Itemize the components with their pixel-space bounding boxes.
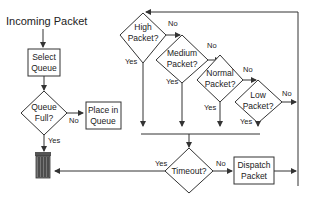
- high-no-label: No: [168, 19, 178, 28]
- svg-text:Queue: Queue: [31, 63, 57, 73]
- svg-text:Packet?: Packet?: [128, 33, 159, 43]
- svg-text:Packet?: Packet?: [205, 79, 236, 89]
- svg-text:Normal: Normal: [206, 68, 234, 78]
- high-yes-label: Yes: [125, 57, 137, 66]
- place-in-queue-node: Place in Queue: [86, 102, 121, 129]
- svg-text:Packet?: Packet?: [243, 101, 274, 111]
- svg-text:High: High: [134, 22, 152, 32]
- queue-full-no-label: No: [69, 116, 79, 125]
- svg-text:Packet?: Packet?: [167, 59, 198, 69]
- incoming-packet-label: Incoming Packet: [6, 15, 87, 27]
- timeout-yes-label: Yes: [155, 159, 167, 168]
- svg-text:Packet: Packet: [241, 171, 268, 181]
- low-yes-label: Yes: [240, 117, 252, 126]
- high-packet-decision: High Packet?: [120, 13, 166, 63]
- svg-text:Full?: Full?: [35, 113, 54, 123]
- svg-text:Place in: Place in: [88, 105, 119, 115]
- low-no-label: No: [282, 89, 292, 98]
- queue-full-yes-label: Yes: [48, 136, 60, 145]
- medium-no-label: No: [207, 41, 217, 50]
- timeout-no-label: No: [216, 159, 226, 168]
- svg-text:Queue: Queue: [31, 102, 57, 112]
- dispatch-packet-node: Dispatch Packet: [234, 157, 274, 184]
- packet-scheduling-flowchart: Incoming Packet Select Queue Queue Full?…: [0, 0, 309, 200]
- timeout-decision: Timeout?: [165, 148, 213, 193]
- svg-text:Medium: Medium: [167, 48, 197, 58]
- trash-can-icon: [35, 152, 51, 178]
- queue-full-decision: Queue Full?: [21, 91, 67, 135]
- medium-yes-label: Yes: [166, 77, 178, 86]
- svg-text:Dispatch: Dispatch: [237, 160, 270, 170]
- normal-no-label: No: [243, 65, 253, 74]
- svg-text:Queue: Queue: [90, 116, 116, 126]
- svg-text:Timeout?: Timeout?: [171, 166, 206, 176]
- normal-yes-label: Yes: [204, 103, 216, 112]
- svg-text:Low: Low: [250, 90, 266, 100]
- select-queue-node: Select Queue: [28, 49, 60, 76]
- svg-text:Select: Select: [32, 52, 56, 62]
